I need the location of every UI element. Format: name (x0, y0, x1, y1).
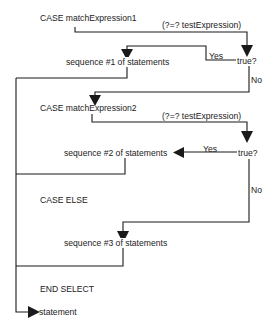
edge-seq2-to-exit (16, 158, 125, 174)
case1-label: CASE matchExpression1 (40, 13, 136, 23)
edge-seq1-to-exit (16, 66, 127, 78)
yes1-label: Yes (209, 51, 223, 61)
arrow-to-seq2 (173, 147, 184, 158)
no1-label: No (251, 75, 262, 85)
end-select-label: END SELECT (40, 284, 94, 294)
seq3-label: sequence #3 of statements (64, 238, 167, 248)
test2-label: (?=? testExpression) (162, 111, 241, 121)
select-case-flowchart: CASE matchExpression1 (?=? testExpressio… (0, 0, 273, 330)
decision1-label: true? (237, 56, 257, 66)
statement-label: statement (39, 307, 77, 317)
arrow-to-decision2 (241, 131, 253, 143)
test1-label: (?=? testExpression) (162, 20, 241, 30)
seq1-label: sequence #1 of statements (66, 57, 169, 67)
edge-decision2-no-to-seq3 (123, 159, 249, 232)
no2-label: No (251, 185, 262, 195)
edge-decision1-no-to-case2 (95, 66, 249, 96)
decision2-label: true? (238, 148, 258, 158)
case-else-label: CASE ELSE (40, 195, 88, 205)
edge-exit-to-statement (16, 78, 30, 312)
yes2-label: Yes (203, 144, 217, 154)
case2-label: CASE matchExpression2 (40, 103, 136, 113)
flowchart-connectors (0, 0, 273, 330)
seq2-label: sequence #2 of statements (64, 148, 167, 158)
edge-seq3-to-exit (16, 248, 123, 266)
